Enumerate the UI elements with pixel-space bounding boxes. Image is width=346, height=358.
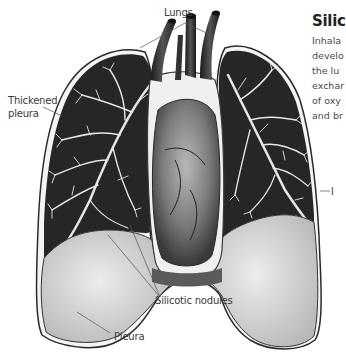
description-line: develo bbox=[312, 48, 344, 63]
label-thickened-pleura-line1: Thickened bbox=[8, 94, 57, 107]
heart bbox=[148, 72, 224, 287]
description-paragraph: Inhala develo the lu exchar of oxy and b… bbox=[312, 33, 344, 123]
label-cut-right: l bbox=[331, 186, 334, 197]
label-lungs: Lungs bbox=[164, 6, 193, 19]
description-line: exchar bbox=[312, 78, 344, 93]
description-line: Inhala bbox=[312, 33, 344, 48]
section-heading: Silic bbox=[312, 12, 346, 30]
description-line: of oxy bbox=[312, 93, 344, 108]
description-line: and br bbox=[312, 108, 344, 123]
label-pleura: Pleura bbox=[114, 330, 144, 343]
description-line: the lu bbox=[312, 63, 344, 78]
label-thickened-pleura-line2: pleura bbox=[8, 107, 39, 120]
label-silicotic-nodules: Silicotic nodules bbox=[155, 294, 233, 307]
